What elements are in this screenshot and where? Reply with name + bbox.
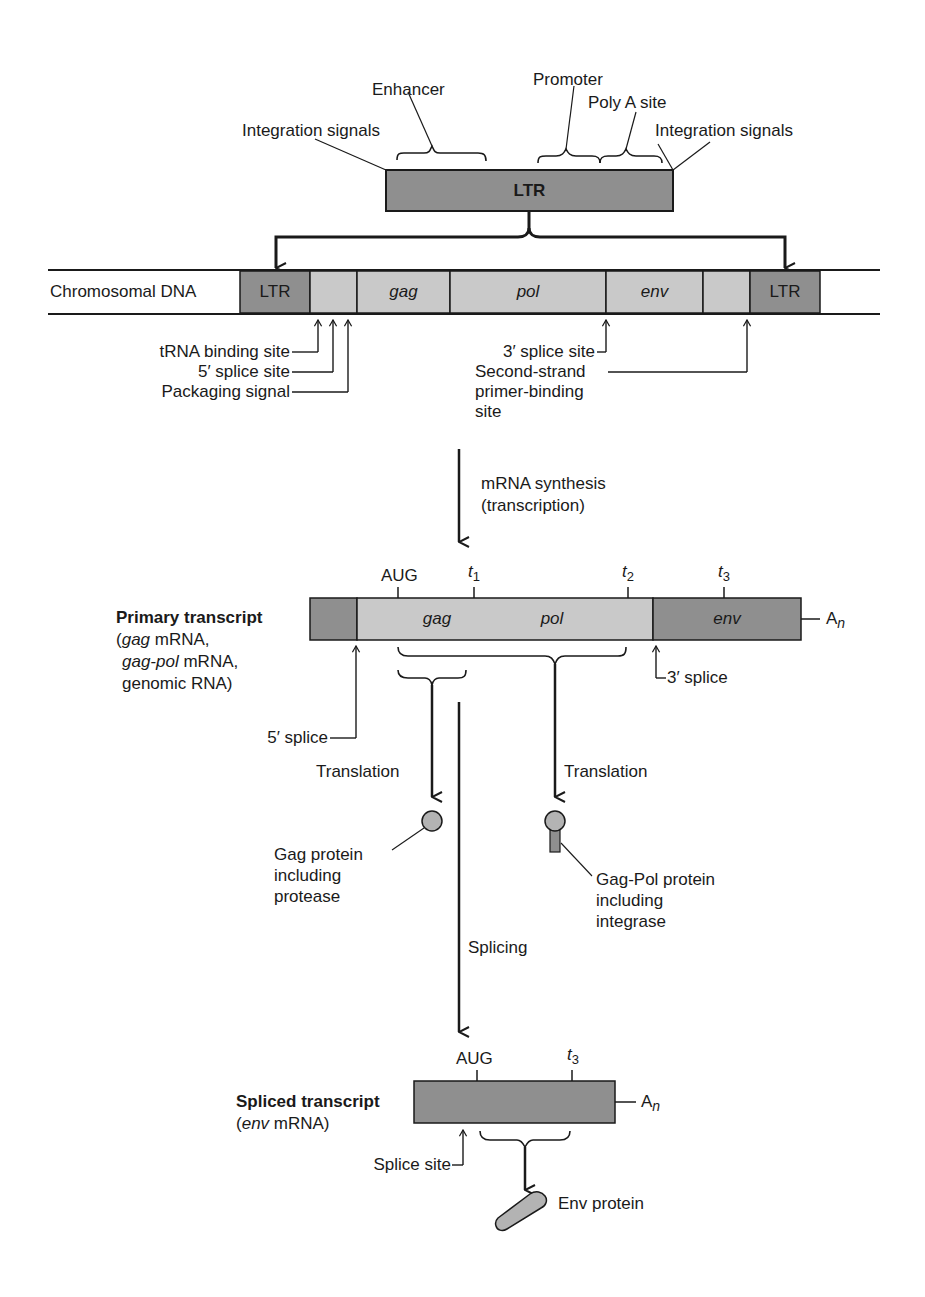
- spliced-transcript-sub: (env mRNA): [236, 1114, 330, 1134]
- segment-env: env: [606, 271, 703, 313]
- chromosomal-dna-label: Chromosomal DNA: [50, 282, 196, 302]
- segment-pol: pol: [450, 271, 606, 313]
- segment-ltr-left: LTR: [240, 271, 310, 313]
- gagpol-protein-icon: [545, 811, 592, 876]
- transcription-label-1: mRNA synthesis: [481, 474, 606, 494]
- second-strand-label-1: Second-strand: [475, 362, 586, 382]
- aug-marker: AUG: [381, 566, 418, 586]
- spliced-transcript-title: Spliced transcript: [236, 1092, 380, 1112]
- splicing-label: Splicing: [468, 938, 528, 958]
- transcript-pol-label: pol: [512, 598, 592, 640]
- primary-transcript-sub-3: genomic RNA): [122, 674, 233, 694]
- integration-signals-left-label: Integration signals: [242, 121, 380, 141]
- poly-a-tail-label: An: [826, 609, 845, 633]
- gagpol-protein-label-1: Gag-Pol protein: [596, 870, 715, 890]
- gag-protein-label-3: protease: [274, 887, 340, 907]
- spliced-poly-a-label: An: [641, 1092, 660, 1116]
- primary-transcript-sub-1: (gag mRNA,: [116, 630, 210, 650]
- spliced-t3-marker: t3: [567, 1045, 579, 1070]
- integration-signals-right-label: Integration signals: [655, 121, 793, 141]
- three-prime-splice-label: 3′ splice: [667, 668, 728, 688]
- promoter-label: Promoter: [533, 70, 603, 90]
- second-strand-label-3: site: [475, 402, 501, 422]
- translation-left-label: Translation: [316, 762, 399, 782]
- poly-a-label: Poly A site: [588, 93, 666, 113]
- primary-transcript: [310, 587, 820, 1032]
- splice-site-label: Splice site: [374, 1155, 451, 1175]
- transcription-label-2: (transcription): [481, 496, 585, 516]
- five-prime-splice-label: 5′ splice: [267, 728, 328, 748]
- t2-marker: t2: [622, 562, 634, 587]
- transcript-env-label: env: [653, 598, 801, 640]
- three-prime-splice-site-label: 3′ splice site: [503, 342, 595, 362]
- env-protein-icon: [496, 1192, 547, 1231]
- gagpol-protein-label-2: including: [596, 891, 663, 911]
- t3-marker: t3: [718, 562, 730, 587]
- ltr-box-label: LTR: [386, 170, 673, 211]
- spliced-aug-marker: AUG: [456, 1049, 493, 1069]
- translation-right-label: Translation: [564, 762, 647, 782]
- segment-ltr-right: LTR: [750, 271, 820, 313]
- primary-transcript-sub-2: gag-pol mRNA,: [122, 652, 238, 672]
- enhancer-label: Enhancer: [372, 80, 445, 100]
- gag-protein-icon: [392, 811, 442, 850]
- packaging-signal-label: Packaging signal: [161, 382, 290, 402]
- gag-protein-label-2: including: [274, 866, 341, 886]
- t1-marker: t1: [468, 562, 480, 587]
- five-prime-splice-site-label: 5′ splice site: [198, 362, 290, 382]
- second-strand-label-2: primer-binding: [475, 382, 584, 402]
- transcript-gag-label: gag: [397, 598, 477, 640]
- gagpol-protein-label-3: integrase: [596, 912, 666, 932]
- trna-binding-site-label: tRNA binding site: [160, 342, 290, 362]
- primary-transcript-title: Primary transcript: [116, 608, 262, 628]
- segment-gag: gag: [357, 271, 450, 313]
- gag-protein-label-1: Gag protein: [274, 845, 363, 865]
- env-protein-label: Env protein: [558, 1194, 644, 1214]
